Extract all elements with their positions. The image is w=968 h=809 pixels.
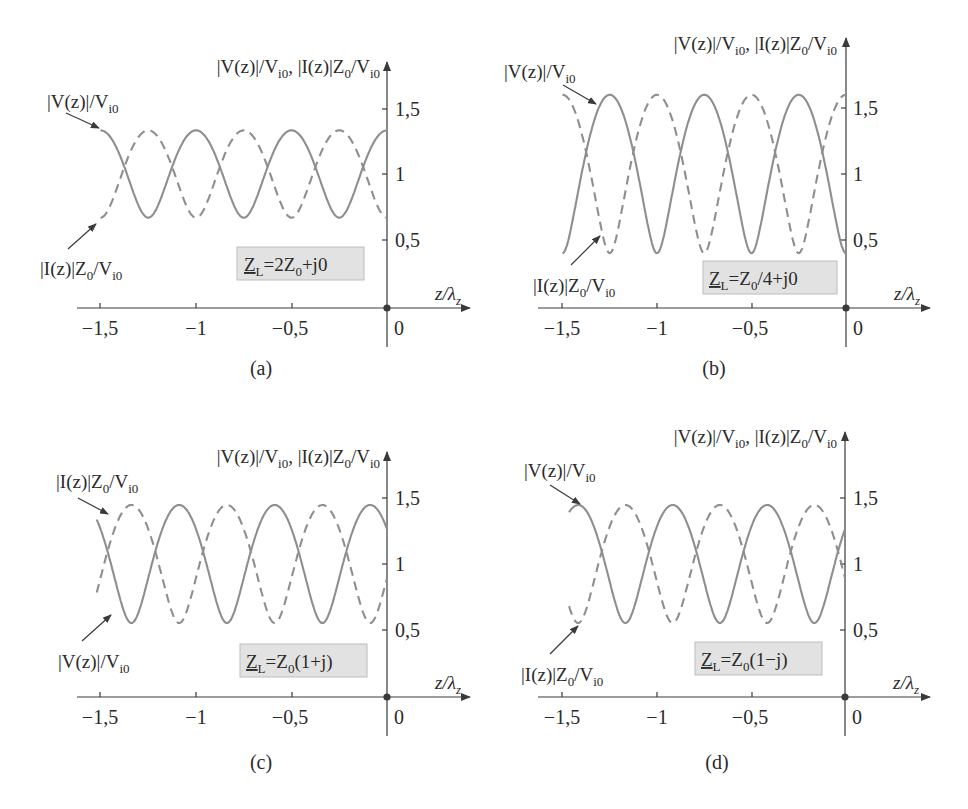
legend-voltage: |V(z)|/Vi0 <box>504 61 596 104</box>
y-tick-label: 1 <box>395 163 405 185</box>
panel-d: −1,5 −1 −0,5 0 1,5 1 0,5 z/λz |V(z)|/Vi0… <box>521 426 930 774</box>
origin-dot <box>842 304 849 311</box>
legend-voltage-label: |V(z)|/Vi0 <box>58 651 130 676</box>
y-axis-label: |V(z)|/Vi0, |I(z)|Z0/Vi0 <box>674 426 837 451</box>
x-tick-label: −1,5 <box>82 706 118 728</box>
legend-current: |I(z)|Z0/Vi0 <box>521 626 603 689</box>
x-axis-label: z/λz <box>893 283 920 308</box>
x-tick-label: 0 <box>853 317 863 339</box>
load-impedance-box: ZL=Z0/4+j0 <box>703 261 837 294</box>
y-axis-label: |V(z)|/Vi0, |I(z)|Z0/Vi0 <box>217 56 380 81</box>
current-curve <box>563 95 847 253</box>
y-tick-label: 1,5 <box>395 98 420 120</box>
pointer-arrow <box>571 236 600 265</box>
y-axis-label: |V(z)|/Vi0, |I(z)|Z0/Vi0 <box>674 33 837 58</box>
load-impedance-box: ZL=2Z0+j0 <box>237 247 364 280</box>
x-axis-label: z/λz <box>434 672 461 697</box>
legend-voltage-label: |V(z)|/Vi0 <box>504 61 576 86</box>
y-tick-label: 1 <box>853 553 863 575</box>
panel-a: −1,5 −1 −0,5 0 1,5 1 0,5 z/λz |V(z)|/Vi0… <box>40 56 470 380</box>
pointer-arrow <box>563 85 596 104</box>
y-tick-label: 0,5 <box>853 619 878 641</box>
legend-current-label: |I(z)|Z0/Vi0 <box>521 664 603 689</box>
panel-caption: (a) <box>250 357 272 380</box>
y-tick-label: 1 <box>395 553 405 575</box>
legend-voltage-label: |V(z)|/Vi0 <box>47 91 119 116</box>
load-impedance-box: ZL=Z0(1−j) <box>695 642 822 675</box>
x-tick-label: −0,5 <box>272 317 308 339</box>
legend-current-label: |I(z)|Z0/Vi0 <box>56 471 138 496</box>
pointer-arrow <box>82 615 111 641</box>
x-tick-label: 0 <box>852 706 862 728</box>
origin-dot <box>383 693 390 700</box>
y-tick-label: 0,5 <box>395 619 420 641</box>
pointer-arrow <box>78 498 108 514</box>
voltage-curve <box>101 130 388 217</box>
panel-caption: (b) <box>702 357 725 380</box>
legend-current-label: |I(z)|Z0/Vi0 <box>40 258 122 283</box>
y-tick-label: 1,5 <box>395 487 420 509</box>
y-axis-label: |V(z)|/Vi0, |I(z)|Z0/Vi0 <box>217 446 380 471</box>
x-tick-label: −1,5 <box>82 317 118 339</box>
legend-current-label: |I(z)|Z0/Vi0 <box>533 275 615 300</box>
panel-b: −1,5 −1 −0,5 0 1,5 1 0,5 z/λz |V(z)|/Vi0… <box>504 33 930 380</box>
x-tick-label: 0 <box>394 706 404 728</box>
y-tick-label: 0,5 <box>853 229 878 251</box>
panel-caption: (d) <box>705 751 728 774</box>
x-tick-label: −0,5 <box>272 706 308 728</box>
panel-caption: (c) <box>250 751 272 774</box>
pointer-arrow <box>68 224 96 249</box>
x-tick-label: −0,5 <box>732 706 768 728</box>
current-curve <box>569 505 845 623</box>
legend-voltage-label: |V(z)|/Vi0 <box>524 460 596 485</box>
panel-d-axes: −1,5 −1 −0,5 0 1,5 1 0,5 z/λz |V(z)|/Vi0… <box>538 426 930 736</box>
x-axis-label: z/λz <box>434 283 461 308</box>
x-axis-label: z/λz <box>892 672 919 697</box>
y-tick-label: 1 <box>853 163 863 185</box>
x-tick-label: −1 <box>646 317 667 339</box>
y-tick-label: 1,5 <box>853 487 878 509</box>
legend-voltage: |V(z)|/Vi0 <box>58 615 130 676</box>
x-tick-label: −1 <box>646 706 667 728</box>
pointer-arrow <box>66 113 99 128</box>
pointer-arrow <box>550 485 580 504</box>
origin-dot <box>383 304 390 311</box>
x-tick-label: −1 <box>185 317 206 339</box>
load-impedance-box: ZL=Z0(1+j) <box>240 644 367 677</box>
x-tick-label: −1,5 <box>544 706 580 728</box>
legend-voltage: |V(z)|/Vi0 <box>47 91 119 128</box>
origin-dot <box>841 693 848 700</box>
current-curve <box>101 130 388 217</box>
pointer-arrow <box>550 626 578 654</box>
figure-canvas: −1,5 −1 −0,5 0 1,5 1 0,5 z/λz |V(z)|/Vi0… <box>0 0 968 809</box>
legend-current: |I(z)|Z0/Vi0 <box>40 224 122 283</box>
y-tick-label: 0,5 <box>395 229 420 251</box>
panel-c: −1,5 −1 −0,5 0 1,5 1 0,5 z/λz |V(z)|/Vi0… <box>56 446 470 774</box>
y-tick-label: 1,5 <box>853 97 878 119</box>
legend-voltage: |V(z)|/Vi0 <box>524 460 596 504</box>
panel-b-axes: −1,5 −1 −0,5 0 1,5 1 0,5 z/λz |V(z)|/Vi0… <box>538 33 930 347</box>
voltage-curve <box>563 95 847 253</box>
x-tick-label: −1,5 <box>544 317 580 339</box>
x-tick-label: −0,5 <box>732 317 768 339</box>
legend-current: |I(z)|Z0/Vi0 <box>533 236 615 300</box>
x-tick-label: −1 <box>185 706 206 728</box>
x-tick-label: 0 <box>394 317 404 339</box>
